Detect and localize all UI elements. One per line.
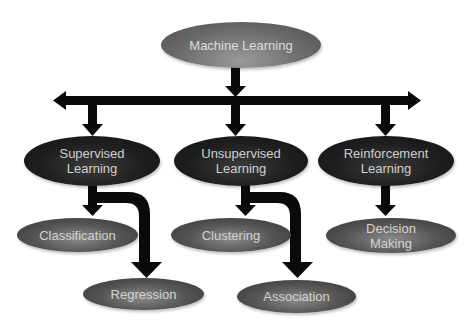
node-label: Association [263,289,329,304]
node-clustering: Clustering [171,218,291,252]
node-machine-learning: Machine Learning [161,22,321,68]
arrow-root-to-bar [225,66,246,97]
node-supervised-learning: Supervised Learning [24,136,160,186]
node-label: Machine Learning [189,38,292,53]
ml-taxonomy-diagram: Machine Learning Supervised Learning Uns… [0,0,474,321]
node-classification: Classification [17,218,138,252]
node-label-line2: Making [370,236,412,251]
node-label-line1: Decision [366,221,416,236]
node-association: Association [237,280,356,313]
node-decision-making: Decision Making [326,218,456,253]
node-label: Clustering [202,228,261,243]
node-label: Regression [111,287,177,302]
arrow-bar-to-reinforcement [375,104,396,136]
arrow-bar-to-unsupervised [225,104,246,136]
node-label-line1: Unsupervised [201,146,281,161]
node-label: Classification [39,228,116,243]
node-label-line2: Learning [361,161,412,176]
node-label-line2: Learning [216,161,267,176]
node-label-line2: Learning [67,161,118,176]
arrow-reinforcement-to-decision-making [375,184,396,216]
arrow-bar-to-supervised [82,104,103,136]
node-reinforcement-learning: Reinforcement Learning [318,136,454,186]
node-label-line1: Reinforcement [344,146,429,161]
node-unsupervised-learning: Unsupervised Learning [174,136,308,186]
node-regression: Regression [83,278,204,310]
node-label-line1: Supervised [59,146,124,161]
